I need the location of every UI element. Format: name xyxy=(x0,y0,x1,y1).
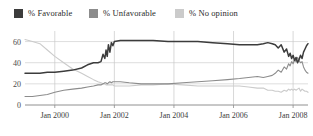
y-axis-tick-label: 60 xyxy=(13,38,21,47)
legend-label-favorable: % Favorable xyxy=(28,9,72,18)
y-gridlines xyxy=(25,42,308,105)
x-axis-tick-label: Jan 2008 xyxy=(279,111,308,120)
x-axis-tick-label: Jan 2002 xyxy=(100,111,129,120)
y-axis-labels: 0204060 xyxy=(13,38,21,110)
legend-swatch-no-opinion xyxy=(175,9,184,18)
chart-plot-area: 0204060 Jan 2000Jan 2002Jan 2004Jan 2006… xyxy=(0,26,313,136)
series-line-unfavorable xyxy=(25,57,308,96)
y-axis-tick-label: 0 xyxy=(17,101,21,110)
chart-legend: % Favorable % Unfavorable % No opinion xyxy=(0,0,313,26)
legend-item-no-opinion: % No opinion xyxy=(175,9,238,18)
x-axis xyxy=(25,105,308,108)
series-group xyxy=(25,39,308,96)
legend-label-no-opinion: % No opinion xyxy=(189,9,238,18)
chart-container: % Favorable % Unfavorable % No opinion 0… xyxy=(0,0,313,136)
x-axis-tick-label: Jan 2006 xyxy=(219,111,248,120)
y-axis-tick-label: 40 xyxy=(13,59,21,68)
x-axis-labels: Jan 2000Jan 2002Jan 2004Jan 2006Jan 2008 xyxy=(40,111,307,120)
legend-swatch-favorable xyxy=(14,9,23,18)
x-axis-tick-label: Jan 2004 xyxy=(160,111,189,120)
line-chart-svg: 0204060 Jan 2000Jan 2002Jan 2004Jan 2006… xyxy=(0,26,313,136)
series-line-favorable xyxy=(25,41,308,74)
legend-label-unfavorable: % Unfavorable xyxy=(103,9,156,18)
x-axis-tick-label: Jan 2000 xyxy=(40,111,69,120)
legend-swatch-unfavorable xyxy=(89,9,98,18)
legend-item-unfavorable: % Unfavorable xyxy=(89,9,156,18)
legend-item-favorable: % Favorable xyxy=(14,9,72,18)
y-axis-tick-label: 20 xyxy=(13,80,21,89)
